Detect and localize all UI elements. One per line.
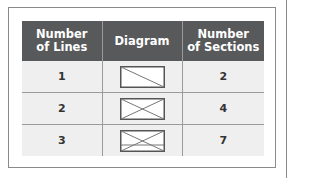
header-text: of Lines (36, 40, 87, 54)
rectangle-two-diagonals-one-horizontal-icon (120, 130, 165, 152)
header-diagram: Diagram (102, 21, 182, 61)
rectangle-two-diagonals-icon (120, 98, 165, 120)
cell-sections: 7 (182, 125, 264, 157)
header-number-of-sections: Number of Sections (182, 21, 264, 61)
cell-diagram (102, 93, 182, 125)
header-text: of Sections (187, 40, 259, 54)
cell-sections: 2 (182, 61, 264, 93)
cell-lines: 1 (22, 61, 102, 93)
lines-sections-table: Number of Lines Diagram Number of Sectio… (22, 21, 264, 156)
cell-diagram (102, 61, 182, 93)
rectangle-one-diagonal-icon (120, 66, 165, 88)
side-rule (286, 0, 287, 178)
cell-lines: 3 (22, 125, 102, 157)
cell-diagram (102, 125, 182, 157)
table-row: 1 2 (22, 61, 264, 93)
header-text: Number (198, 27, 250, 41)
cell-lines: 2 (22, 93, 102, 125)
table-row: 3 7 (22, 125, 264, 157)
table-row: 2 4 (22, 93, 264, 125)
cell-sections: 4 (182, 93, 264, 125)
header-row: Number of Lines Diagram Number of Sectio… (22, 21, 264, 61)
header-number-of-lines: Number of Lines (22, 21, 102, 61)
header-text: Number (36, 27, 88, 41)
